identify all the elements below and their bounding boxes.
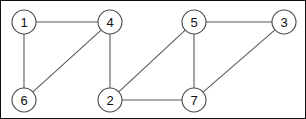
graph-node-label-5: 5 bbox=[190, 15, 197, 30]
node-layer: 1453627 bbox=[12, 10, 296, 112]
graph-node-label-3: 3 bbox=[280, 15, 287, 30]
graph-canvas: 1453627 bbox=[1, 1, 306, 119]
graph-node-label-2: 2 bbox=[106, 93, 113, 108]
graph-node-5[interactable]: 5 bbox=[182, 10, 206, 34]
graph-node-label-4: 4 bbox=[106, 15, 113, 30]
graph-node-label-6: 6 bbox=[20, 93, 27, 108]
graph-edge-3-7 bbox=[203, 30, 275, 92]
edge-layer bbox=[24, 22, 275, 100]
graph-node-4[interactable]: 4 bbox=[98, 10, 122, 34]
graph-figure-frame: 1453627 bbox=[0, 0, 306, 119]
graph-node-7[interactable]: 7 bbox=[182, 88, 206, 112]
graph-node-label-7: 7 bbox=[190, 93, 197, 108]
graph-node-1[interactable]: 1 bbox=[12, 10, 36, 34]
graph-edge-6-4 bbox=[33, 30, 101, 92]
graph-node-2[interactable]: 2 bbox=[98, 88, 122, 112]
graph-edge-2-5 bbox=[119, 30, 185, 92]
graph-node-label-1: 1 bbox=[20, 15, 27, 30]
graph-node-3[interactable]: 3 bbox=[272, 10, 296, 34]
graph-node-6[interactable]: 6 bbox=[12, 88, 36, 112]
